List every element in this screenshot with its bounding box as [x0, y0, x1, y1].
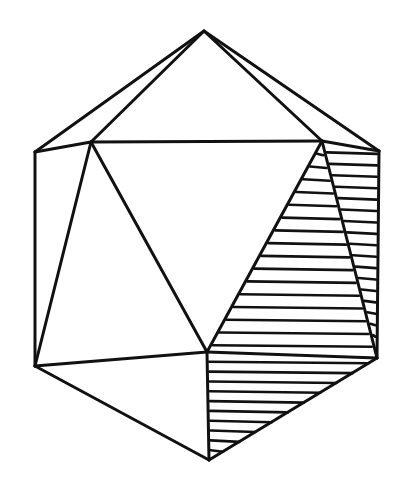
- hatch-line: [350, 244, 376, 246]
- hatch-line: [310, 167, 326, 169]
- hatch-line: [373, 335, 375, 337]
- hatch-line: [209, 372, 352, 374]
- hatch-line: [241, 294, 359, 296]
- hatch-line: [362, 289, 376, 291]
- hatch-line: [367, 312, 375, 314]
- hatch-line: [344, 221, 376, 223]
- edge-C-B: [207, 352, 209, 460]
- hatch-line: [275, 230, 342, 232]
- hatch-line: [338, 198, 376, 200]
- hatch-line: [210, 381, 337, 383]
- hatch-line: [333, 175, 377, 177]
- hatch-line: [330, 164, 377, 166]
- edge-L2-C: [35, 352, 207, 366]
- hatch-line: [289, 205, 336, 207]
- hatch-line: [347, 232, 376, 234]
- hatch-line: [268, 243, 346, 245]
- edge-IR-R2: [322, 141, 377, 358]
- edge-T-L1: [35, 31, 204, 152]
- hatch-line: [303, 179, 330, 181]
- bottom-right-face: [209, 362, 369, 452]
- edge-L2-B: [35, 366, 209, 460]
- edge-IL-IR: [91, 141, 322, 142]
- hatch-line: [336, 187, 377, 189]
- edge-T-IL: [91, 31, 204, 142]
- hatch-line: [220, 332, 369, 334]
- edge-R1-R2: [377, 151, 379, 358]
- hatch-line: [210, 411, 288, 413]
- edge-T-IR: [204, 31, 322, 141]
- edge-IL-L2: [35, 142, 91, 366]
- hatch-line: [210, 401, 304, 403]
- hatch-line: [341, 210, 376, 212]
- hatch-line: [209, 362, 369, 364]
- hatch-line: [247, 281, 355, 283]
- hatch-line: [359, 278, 376, 280]
- hatch-line: [211, 440, 240, 442]
- icosahedron-drawing: [0, 0, 405, 493]
- edge-IL-C: [91, 142, 207, 352]
- hatch-line: [353, 255, 376, 257]
- hatch-line: [282, 218, 339, 220]
- edge-T-R1: [204, 31, 379, 151]
- hatch-line: [365, 301, 376, 303]
- hatch-line: [327, 152, 377, 154]
- front-right-face: [213, 154, 372, 347]
- hatch-line: [213, 345, 372, 347]
- hatch-line: [210, 431, 255, 433]
- hatch-line: [356, 267, 376, 269]
- hatch-line: [261, 256, 349, 258]
- hatch-line: [370, 324, 375, 326]
- hatch-line: [234, 307, 363, 309]
- hatch-line: [210, 391, 320, 393]
- hatch-line: [317, 154, 323, 156]
- edge-C-R2: [207, 352, 377, 358]
- hatch-line: [296, 192, 333, 194]
- hatch-line: [254, 269, 352, 271]
- hatch-line: [227, 320, 366, 322]
- hatch-line: [210, 421, 271, 423]
